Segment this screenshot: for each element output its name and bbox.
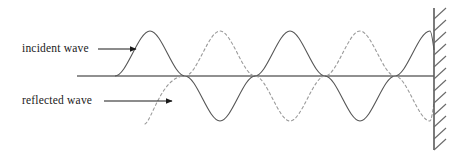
incident-wave-label: incident wave xyxy=(22,42,89,54)
wave-diagram-canvas xyxy=(0,0,469,157)
wave-diagram-figure: incident wave reflected wave xyxy=(0,0,469,157)
reflected-wave-label: reflected wave xyxy=(22,94,92,106)
wall-hatching-marks xyxy=(434,8,446,150)
